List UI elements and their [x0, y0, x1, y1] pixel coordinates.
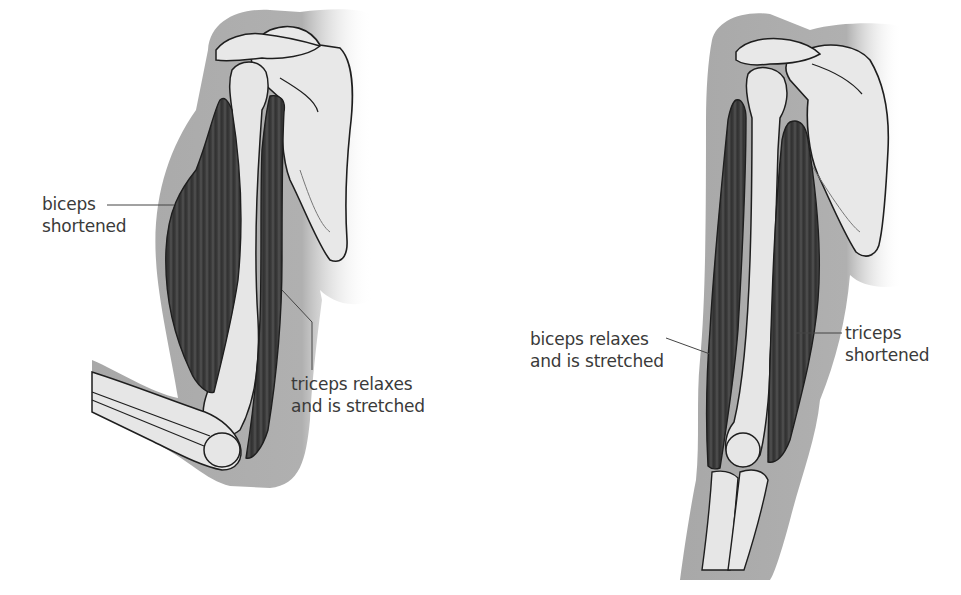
- extended-arm-diagram: [680, 13, 902, 580]
- diagram-stage: biceps shortened triceps relaxes and is …: [0, 0, 961, 595]
- label-line: shortened: [845, 344, 929, 366]
- biceps-shortened-label: biceps shortened: [42, 193, 126, 237]
- triceps-shortened-label: triceps shortened: [845, 322, 929, 366]
- label-line: and is stretched: [530, 350, 664, 372]
- extended-elbow-joint: [726, 433, 760, 467]
- label-line: biceps: [42, 193, 126, 215]
- arm-illustrations: [0, 0, 961, 595]
- label-line: triceps relaxes: [291, 373, 425, 395]
- biceps-relaxes-label: biceps relaxes and is stretched: [530, 328, 664, 372]
- label-line: shortened: [42, 215, 126, 237]
- label-line: biceps relaxes: [530, 328, 664, 350]
- label-line: triceps: [845, 322, 929, 344]
- flexed-elbow-joint: [204, 433, 240, 467]
- label-line: and is stretched: [291, 395, 425, 417]
- triceps-relaxes-label: triceps relaxes and is stretched: [291, 373, 425, 417]
